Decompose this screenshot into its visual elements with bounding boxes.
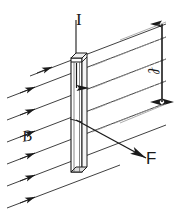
length-label: ℓ [145,67,162,74]
current-label: I [76,11,82,28]
field-label: B [21,128,33,145]
conductor-rod [71,53,87,172]
field-arrow [20,109,35,115]
field-arrow [37,67,52,73]
field-arrow [20,87,35,93]
figure-canvas: I F B ℓ [0,0,179,218]
field-arrow [20,197,35,203]
field-arrow [20,153,35,159]
physics-diagram-svg [0,0,179,218]
field-arrow [20,175,35,181]
force-label: F [146,150,156,167]
